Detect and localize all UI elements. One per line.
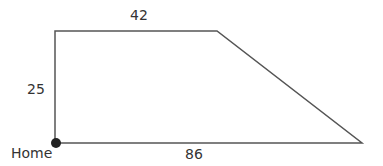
trapezoid-diagram — [0, 0, 383, 166]
trapezoid-outline — [55, 31, 362, 143]
left-side-label: 25 — [27, 82, 45, 96]
home-dot-icon — [51, 138, 61, 148]
top-side-label: 42 — [130, 8, 148, 22]
bottom-side-label: 86 — [185, 147, 203, 161]
home-label: Home — [11, 146, 52, 160]
